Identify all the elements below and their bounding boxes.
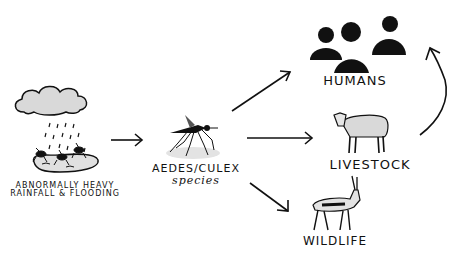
rain-cloud-icon bbox=[15, 86, 86, 115]
gazelle-icon bbox=[313, 176, 360, 230]
arrow-vector-to-humans bbox=[232, 71, 290, 111]
arrow-source-to-vector bbox=[111, 134, 142, 146]
vector-label: AEDES/CULEX species bbox=[150, 163, 242, 186]
livestock-label: LIVESTOCK bbox=[315, 158, 425, 172]
source-label-line2: RAINFALL & FLOODING bbox=[5, 190, 125, 198]
mosquito-icon bbox=[166, 115, 220, 159]
arrow-vector-to-wildlife bbox=[250, 183, 288, 211]
people-group-icon bbox=[310, 16, 406, 73]
arrow-vector-to-livestock bbox=[247, 132, 312, 144]
humans-label: HUMANS bbox=[310, 74, 400, 88]
source-label: ABNORMALLY HEAVY RAINFALL & FLOODING bbox=[5, 182, 125, 199]
diagram-canvas bbox=[0, 0, 475, 264]
wildlife-label: WILDLIFE bbox=[292, 235, 378, 248]
vector-label-line1: AEDES/CULEX bbox=[150, 163, 242, 175]
sheep-icon bbox=[334, 113, 388, 153]
arrow-livestock-to-humans bbox=[420, 48, 446, 135]
vector-label-line2: species bbox=[150, 175, 242, 187]
